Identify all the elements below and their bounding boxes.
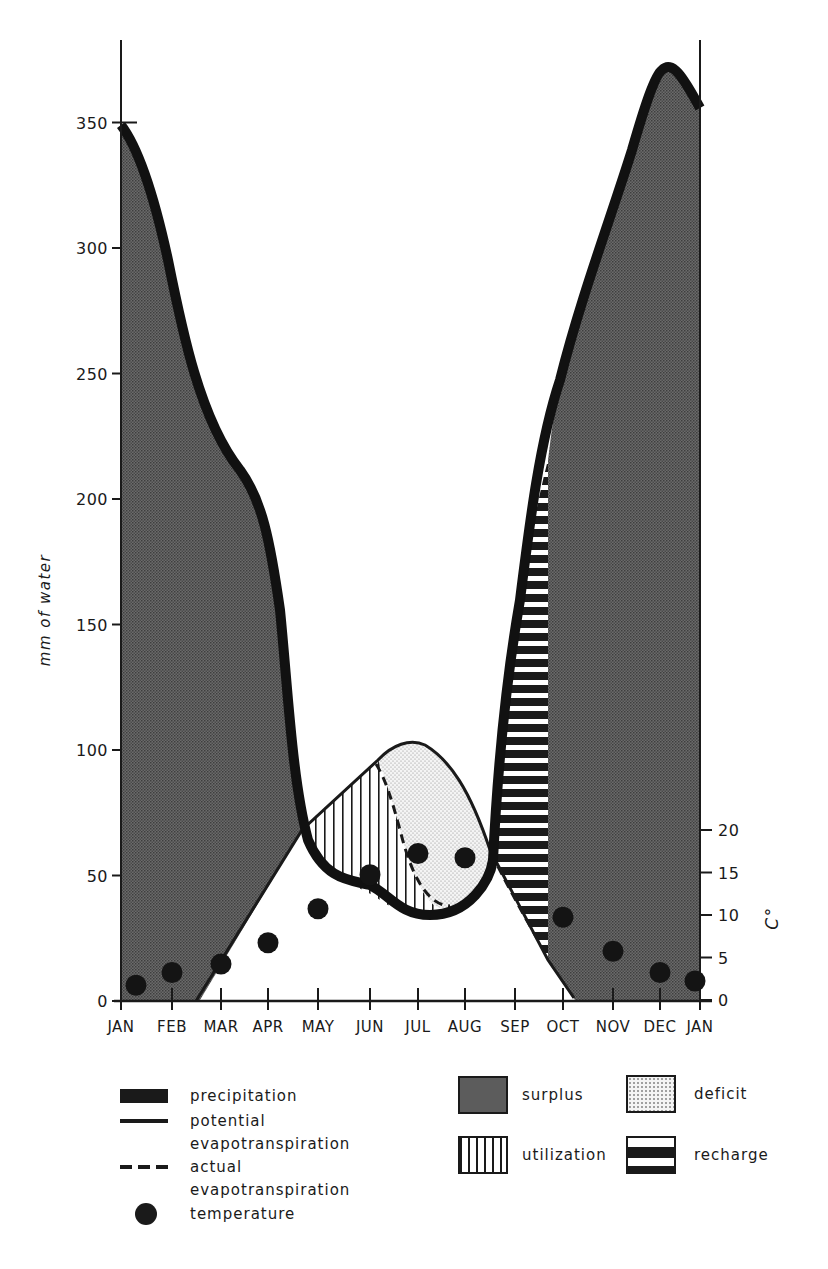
legend-item-utilization: utilization (458, 1136, 607, 1174)
y-tick-label: 350 (76, 114, 108, 133)
legend-item-actual-evapotranspiration-line2: evapotranspiration (190, 1180, 350, 1200)
temperature-dot (408, 843, 429, 864)
legend-label: recharge (694, 1145, 769, 1165)
legend-label: deficit (694, 1084, 748, 1104)
legend-item-deficit: deficit (626, 1075, 748, 1113)
temperature-dot (360, 864, 381, 885)
y2-tick-label: 5 (718, 949, 729, 968)
y2-tick-label: 0 (718, 991, 729, 1010)
legend-item-precipitation: precipitation (120, 1086, 298, 1106)
y-tick-label: 50 (87, 867, 108, 886)
y2-tick-label: 10 (718, 906, 739, 925)
y-tick-label: 200 (76, 490, 108, 509)
legend-label: evapotranspiration (190, 1134, 350, 1154)
legend-item-temperature: temperature (135, 1203, 295, 1225)
temperature-dot (162, 962, 183, 983)
temperature-dot (553, 907, 574, 928)
y-tick-label: 100 (76, 741, 108, 760)
legend-label: surplus (522, 1085, 584, 1105)
legend-item-potential-evapotranspiration: potential (120, 1111, 266, 1131)
temperature-dot (308, 898, 329, 919)
y2-tick-label: 20 (718, 821, 739, 840)
month-label: DEC (643, 1018, 676, 1036)
temperature-dot (258, 932, 279, 953)
month-label: OCT (547, 1018, 580, 1036)
temperature-dot (455, 847, 476, 868)
y-axis-title: mm of water (36, 554, 54, 666)
y2-tick-label: 15 (718, 864, 739, 883)
horizontal-bar-pattern-icon (626, 1136, 676, 1174)
month-label: JAN (106, 1018, 134, 1036)
month-label: JUL (404, 1018, 430, 1036)
month-label: SEP (500, 1018, 530, 1036)
light-dot-pattern-icon (626, 1075, 676, 1113)
legend-label: precipitation (190, 1086, 298, 1106)
month-label: APR (252, 1018, 283, 1036)
month-label: FEB (157, 1018, 187, 1036)
dense-dot-pattern-icon (458, 1076, 508, 1114)
legend-label: utilization (522, 1145, 607, 1165)
y-tick-label: 250 (76, 365, 108, 384)
month-label: JUN (355, 1018, 384, 1036)
month-label: AUG (448, 1018, 482, 1036)
month-label: NOV (596, 1018, 631, 1036)
y2-axis-title: C° (762, 906, 782, 929)
thick-bar-icon (120, 1089, 168, 1103)
y-tick-label: 0 (97, 992, 108, 1011)
legend-item-surplus: surplus (458, 1076, 584, 1114)
legend-item-recharge: recharge (626, 1136, 769, 1174)
legend-item-potential-evapotranspiration-line2: evapotranspiration (190, 1134, 350, 1154)
y-tick-label: 300 (76, 239, 108, 258)
filled-dot-icon (135, 1203, 157, 1225)
legend-label: actual (190, 1157, 242, 1177)
temperature-dot (126, 975, 147, 996)
legend-label: evapotranspiration (190, 1180, 350, 1200)
legend-label: temperature (190, 1204, 295, 1224)
month-label: MAR (203, 1018, 238, 1036)
y2-axis-ticks: 05101520 (700, 821, 739, 1010)
month-label: JAN (685, 1018, 713, 1036)
temperature-dot (603, 941, 624, 962)
y-tick-label: 150 (76, 616, 108, 635)
month-label: MAY (302, 1018, 335, 1036)
solid-line-icon (120, 1119, 168, 1123)
legend-label: potential (190, 1111, 266, 1131)
temperature-dot (211, 954, 232, 975)
surplus-area-right (548, 66, 700, 1000)
legend-item-actual-evapotranspiration: actual (120, 1157, 242, 1177)
vertical-hatch-icon (458, 1136, 508, 1174)
temperature-dot (685, 971, 706, 992)
temperature-dot (650, 962, 671, 983)
dashed-line-icon (120, 1165, 168, 1169)
